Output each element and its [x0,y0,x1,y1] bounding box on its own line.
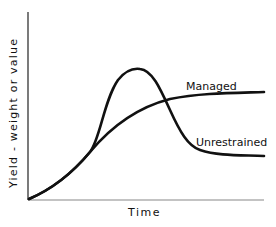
unrestrained-label: Unrestrained [196,136,267,149]
yield-chart: Managed Unrestrained Time Yield - weight… [0,0,276,227]
y-axis-label: Yield - weight or value [7,38,20,189]
x-axis-label: Time [127,206,161,219]
managed-label: Managed [186,80,237,93]
